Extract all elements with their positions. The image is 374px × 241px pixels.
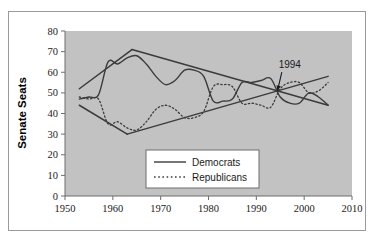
figure-canvas: 01020304050607080 1950196019701980199020…: [0, 0, 374, 241]
y-tick-label: 60: [48, 67, 59, 78]
x-tick-label: 1950: [55, 203, 76, 214]
legend-label-democrats: Democrats: [192, 157, 240, 168]
x-tick-label: 2010: [342, 203, 363, 214]
x-axis-tick-labels: 1950196019701980199020002010: [55, 203, 363, 214]
y-tick-label: 30: [48, 129, 59, 140]
y-axis: [61, 31, 65, 196]
y-tick-label: 10: [48, 170, 59, 181]
y-tick-label: 40: [48, 108, 59, 119]
x-tick-label: 1970: [150, 203, 171, 214]
chart-legend[interactable]: Democrats Republicans: [146, 150, 259, 188]
senate-seats-line-chart: 01020304050607080 1950196019701980199020…: [0, 0, 374, 241]
y-tick-label: 70: [48, 46, 59, 57]
x-axis: [65, 196, 352, 200]
x-tick-label: 1990: [246, 203, 267, 214]
y-axis-title: Senate Seats: [16, 77, 28, 149]
y-tick-label: 50: [48, 87, 59, 98]
y-tick-label: 80: [48, 26, 59, 37]
x-tick-label: 1980: [198, 203, 219, 214]
x-tick-label: 2000: [294, 203, 315, 214]
x-tick-label: 1960: [102, 203, 123, 214]
y-tick-label: 20: [48, 149, 59, 160]
annotation-label-year-1994: 1994: [279, 59, 302, 70]
legend-label-republicans: Republicans: [192, 172, 247, 183]
y-tick-label: 0: [53, 191, 58, 202]
y-axis-tick-labels: 01020304050607080: [48, 26, 59, 202]
